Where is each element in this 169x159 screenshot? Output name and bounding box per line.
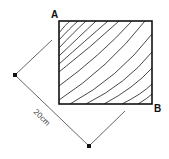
dimension-endpoint-marker — [87, 144, 91, 148]
dimension-endpoint-marker — [13, 73, 17, 77]
contour-lines — [59, 21, 152, 104]
corner-label-a: A — [51, 9, 58, 20]
dimension-line — [15, 75, 89, 146]
corner-label-b: B — [154, 103, 161, 114]
extension-line-bottom — [89, 111, 125, 146]
extension-line-top — [15, 40, 52, 75]
diagram-canvas — [0, 0, 169, 159]
